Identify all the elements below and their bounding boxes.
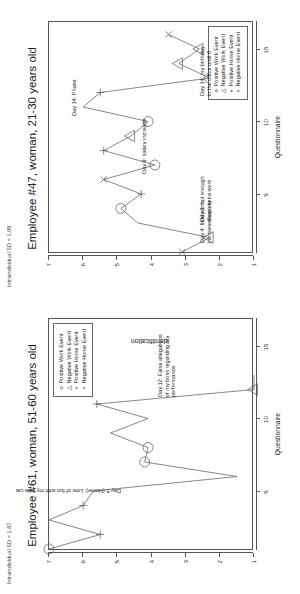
x-tick-label: 10	[262, 119, 269, 126]
panel-employee-47: Intraindividual SD = 1.09 Employee #47, …	[0, 0, 300, 297]
legend-item-positive-work: o Positive Work Event	[213, 32, 221, 95]
y-tick-label: 7	[45, 560, 52, 572]
y-tick	[82, 256, 83, 260]
y-tick-label: 3	[181, 263, 188, 275]
legend-label-negative-work: Negative Work Event	[66, 331, 74, 383]
y-tick-label: 1	[250, 560, 257, 572]
y-tick	[185, 256, 186, 260]
x-tick-label: 15	[262, 344, 269, 351]
legend-label-negative-home: Negative Home Event	[235, 32, 243, 86]
legend-item-negative-work: △ Negative Work Event	[66, 329, 74, 392]
y-tick-label: 3	[181, 560, 188, 572]
annotation-day14-phase-panel2: Day 14: Phase	[71, 79, 78, 116]
legend-item-negative-home: × Negative Home Event	[81, 329, 89, 392]
legend-label-negative-home: Negative Home Event	[81, 329, 89, 383]
annotation-day5-panel1: Day 5 (Home): Lots of fun with my little…	[16, 487, 121, 494]
legend-label-positive-home: Positive Home Event	[228, 35, 236, 87]
y-tick-label: 4	[147, 560, 154, 572]
legend-symbol-cross-icon: ×	[235, 86, 243, 95]
panel-title-1: Employee #61, woman, 51-60 years old	[26, 297, 38, 594]
legend-label-positive-home: Positive Home Event	[73, 332, 81, 384]
intraindividual-sd-label-1: Intraindividual SD = 1.87	[6, 523, 12, 584]
y-tick	[116, 256, 117, 260]
y-tick	[219, 256, 220, 260]
legend-1: o Positive Work Event △ Negative Work Ev…	[53, 323, 93, 397]
x-tick	[256, 194, 260, 195]
x-tick-label: 15	[262, 47, 269, 54]
x-axis-line-1	[256, 318, 257, 550]
plot-area-1: o Positive Work Event △ Negative Work Ev…	[48, 318, 253, 550]
legend-2: o Positive Work Event △ Negative Work Ev…	[208, 26, 248, 100]
y-tick-label: 6	[79, 263, 86, 275]
y-tick-label: 1	[250, 263, 257, 275]
y-axis-title-2: Identification	[90, 338, 210, 345]
legend-label-positive-work: Positive Work Event	[213, 36, 221, 86]
legend-item-positive-home: + Positive Home Event	[73, 329, 81, 392]
y-tick	[185, 553, 186, 557]
plot-area-2: o Positive Work Event △ Negative Work Ev…	[48, 21, 253, 253]
legend-label-positive-work: Positive Work Event	[58, 333, 66, 383]
x-tick	[256, 49, 260, 50]
legend-symbol-plus-icon: +	[73, 383, 81, 392]
x-axis-line-2	[256, 21, 257, 253]
legend-item-negative-home: × Negative Home Event	[235, 32, 243, 95]
x-tick-label: 5	[262, 193, 269, 196]
y-tick-label: 6	[79, 560, 86, 572]
legend-item-negative-work: △ Negative Work Event	[220, 32, 228, 95]
x-tick	[256, 419, 260, 420]
y-tick-label: 5	[113, 560, 120, 572]
legend-symbol-cross-icon: ×	[81, 383, 89, 392]
legend-symbol-circle-icon: o	[213, 86, 221, 95]
legend-symbol-triangle-icon: △	[220, 86, 228, 95]
x-axis-title-1: Questionnaire	[274, 318, 281, 550]
y-tick-label: 7	[45, 263, 52, 275]
legend-item-positive-work: o Positive Work Event	[58, 329, 66, 392]
y-tick	[253, 256, 254, 260]
intraindividual-sd-label-2: Intraindividual SD = 1.09	[6, 226, 12, 287]
y-tick-label: 4	[147, 263, 154, 275]
annotation-day9-panel2: Day 9: salary increase	[141, 119, 148, 174]
y-tick	[219, 553, 220, 557]
y-tick	[48, 256, 49, 260]
x-tick	[256, 122, 260, 123]
y-tick	[48, 553, 49, 557]
legend-symbol-triangle-icon: △	[66, 383, 74, 392]
x-tick-label: 10	[262, 416, 269, 423]
y-tick-label: 2	[215, 560, 222, 572]
x-axis-title-2: Questionnaire	[274, 21, 281, 253]
y-tick	[82, 553, 83, 557]
y-tick-label: 5	[113, 263, 120, 275]
y-tick	[116, 553, 117, 557]
y-tick	[151, 553, 152, 557]
y-tick	[151, 256, 152, 260]
legend-item-positive-home: + Positive Home Event	[228, 32, 236, 95]
figure-canvas: Intraindividual SD = 1.87 Employee #61, …	[0, 0, 300, 594]
y-tick	[253, 553, 254, 557]
x-tick	[256, 491, 260, 492]
annotation-day14-birthday-panel2: Day 14: my birthday in the office until …	[199, 46, 212, 96]
legend-symbol-plus-icon: +	[228, 86, 236, 95]
panel-title-2: Employee #47, woman, 21-30 years old	[26, 0, 38, 297]
x-tick-label: 5	[262, 490, 269, 493]
legend-label-negative-work: Negative Work Event	[220, 34, 228, 86]
annotation-day4-panel2: Day 4: field work, increased variety	[199, 200, 212, 243]
x-tick	[256, 346, 260, 347]
y-tick-label: 2	[215, 263, 222, 275]
legend-symbol-circle-icon: o	[58, 383, 66, 392]
